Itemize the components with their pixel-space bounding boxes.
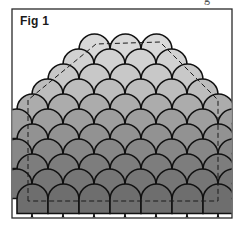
scale-tile (17, 184, 48, 214)
figure-label: Fig 1 (20, 14, 49, 28)
scale-pattern-illustration (0, 0, 248, 233)
scale-tile (48, 184, 79, 214)
scale-tile (172, 184, 203, 214)
scale-tile (79, 184, 110, 214)
scale-tile (141, 184, 172, 214)
scale-tile (110, 184, 141, 214)
figure-1: g Fig 1 (0, 0, 248, 233)
